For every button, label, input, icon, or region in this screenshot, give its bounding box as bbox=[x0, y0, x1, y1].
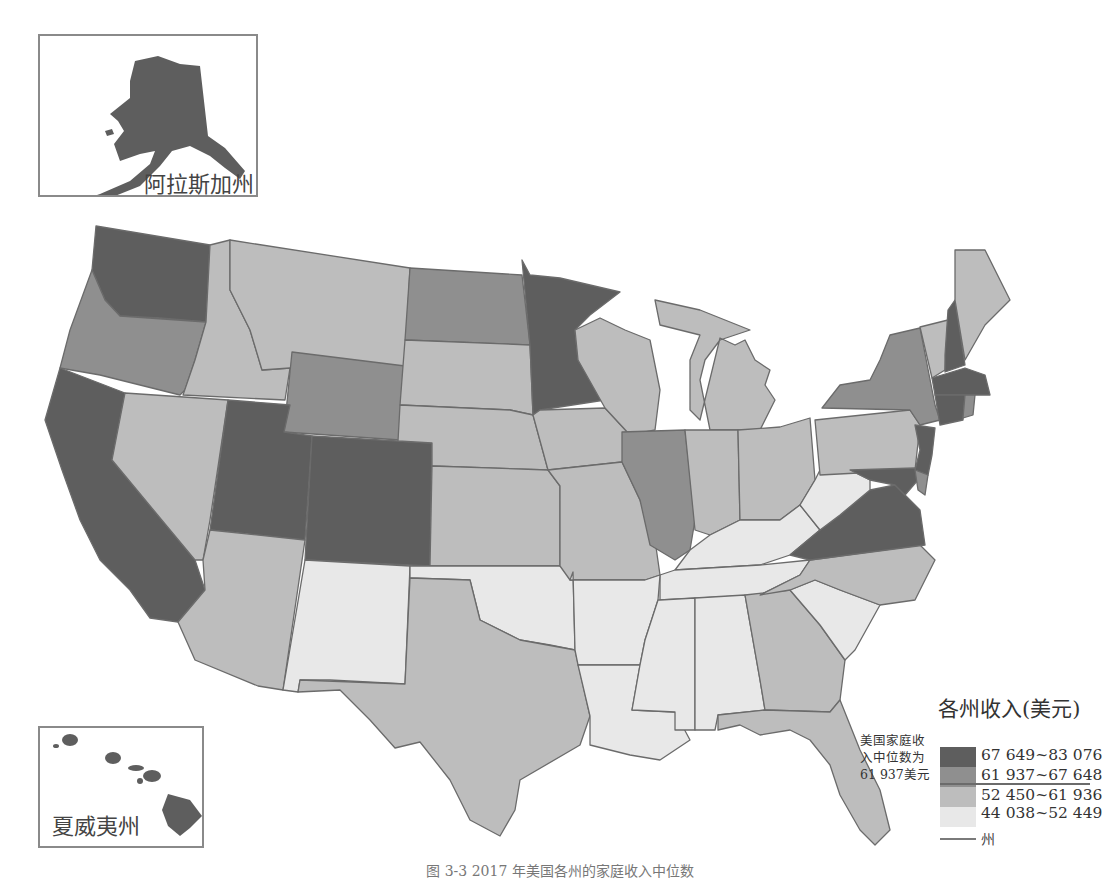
figure-caption: 图 3-3 2017 年美国各州的家庭收入中位数 bbox=[0, 860, 1120, 879]
state-pennsylvania bbox=[815, 410, 920, 475]
state-new-mexico bbox=[283, 560, 410, 692]
legend-title: 各州收入(美元) bbox=[938, 692, 1080, 722]
state-north-dakota bbox=[405, 268, 530, 345]
median-note-line-2: 入中位数为 bbox=[860, 749, 938, 766]
legend-range-tier1: 67 649~83 076 bbox=[981, 746, 1102, 764]
state-new-jersey bbox=[915, 425, 935, 475]
state-boundary-sample-line bbox=[940, 838, 976, 840]
state-kansas bbox=[430, 466, 560, 566]
median-note-line-1: 美国家庭收 bbox=[860, 732, 938, 749]
legend-swatch-tier3 bbox=[940, 787, 976, 807]
legend-range-tier4: 44 038~52 449 bbox=[981, 804, 1102, 822]
state-wyoming bbox=[284, 352, 405, 440]
legend-range-tier3: 52 450~61 936 bbox=[981, 786, 1102, 804]
state-maine bbox=[955, 250, 1010, 360]
state-montana bbox=[230, 240, 410, 370]
legend-median-note: 美国家庭收 入中位数为 61 937美元 bbox=[860, 732, 938, 783]
legend-range-tier2: 61 937~67 648 bbox=[981, 766, 1102, 784]
state-michigan bbox=[655, 300, 775, 430]
state-colorado bbox=[305, 436, 432, 566]
legend-swatch-tier1 bbox=[940, 747, 976, 767]
median-divider-line bbox=[940, 783, 1090, 785]
median-note-line-3: 61 937美元 bbox=[860, 766, 938, 783]
legend: 各州收入(美元) 美国家庭收 入中位数为 61 937美元 67 649~83 … bbox=[860, 690, 1120, 860]
legend-swatch-tier4 bbox=[940, 807, 976, 827]
state-south-dakota bbox=[400, 340, 533, 415]
state-new-york bbox=[822, 328, 940, 425]
state-connecticut bbox=[935, 395, 965, 425]
state-rhode-island bbox=[963, 395, 975, 418]
state-boundary-label: 州 bbox=[981, 828, 995, 848]
state-delaware bbox=[915, 470, 928, 495]
